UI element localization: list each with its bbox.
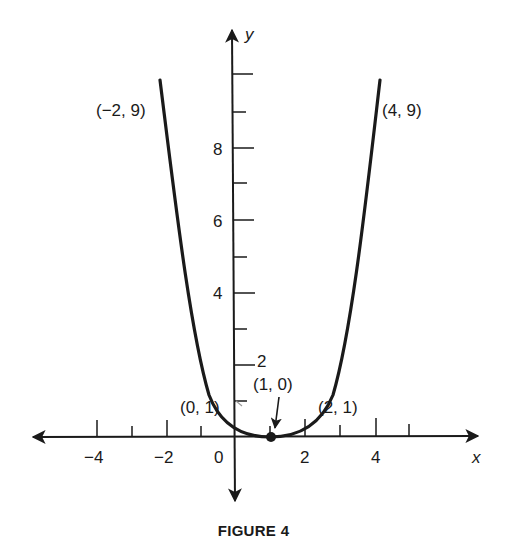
y-tick-label-2: 2: [257, 352, 266, 371]
x-tick-label-2: 2: [300, 448, 309, 467]
x-tick-label-4: 4: [371, 448, 380, 467]
vertex-arrow: [275, 397, 279, 428]
x-tick-label-neg4: −4: [84, 448, 103, 467]
point-label-1-0: (1, 0): [253, 375, 293, 394]
y-axis: [232, 30, 235, 501]
y-axis-label: y: [244, 25, 255, 44]
point-label-2-1: (2, 1): [318, 398, 358, 417]
y-tick-label-4: 4: [213, 284, 222, 303]
vertex-point: [266, 432, 276, 442]
point-label-4-9: (4, 9): [382, 101, 422, 120]
x-tick-label-0: 0: [214, 448, 223, 467]
y-axis-ticks: [233, 74, 255, 401]
y-tick-label-6: 6: [213, 212, 222, 231]
x-tick-label-neg2: −2: [154, 448, 173, 467]
parabola-figure: y x −4 −2 0 2 4 2 4 6 8 (−2, 9) (4, 9) (…: [0, 0, 507, 550]
x-axis-label: x: [471, 448, 481, 467]
figure-caption: FIGURE 4: [0, 522, 507, 539]
point-label-0-1: (0, 1): [180, 398, 220, 417]
point-label-neg2-9: (−2, 9): [96, 101, 146, 120]
y-tick-label-8: 8: [213, 140, 222, 159]
